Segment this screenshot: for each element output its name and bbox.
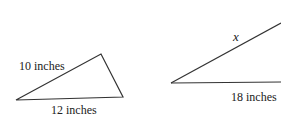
right-side-a-label: x — [232, 29, 239, 44]
left-side-b-label: 12 inches — [51, 103, 97, 117]
left-side-a-label: 10 inches — [19, 59, 65, 73]
right-side-b — [171, 82, 281, 83]
similar-triangles-diagram: 10 inches 12 inches x 18 inches — [0, 0, 281, 125]
right-triangle: x 18 inches — [171, 23, 281, 104]
right-side-b-label: 18 inches — [231, 90, 277, 104]
right-side-a — [171, 23, 281, 83]
left-triangle: 10 inches 12 inches — [16, 54, 123, 117]
